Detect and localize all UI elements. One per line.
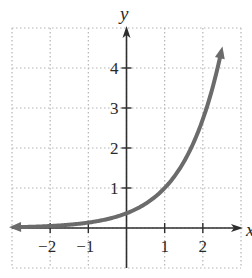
x-tick-label: −1 — [76, 237, 94, 256]
y-axis-label: y — [118, 3, 129, 24]
y-tick-label: 4 — [110, 59, 119, 78]
x-tick-label: 1 — [160, 237, 169, 256]
x-tick-label: −2 — [38, 237, 56, 256]
axes — [12, 26, 243, 268]
y-tick-label: 2 — [110, 139, 119, 158]
y-tick-label: 3 — [110, 99, 119, 118]
y-tick-label: 1 — [110, 179, 119, 198]
x-axis-label: x — [245, 219, 252, 240]
curve-arrow-left-icon — [9, 222, 21, 232]
exponential-graph: −2−1121234 x y — [0, 0, 252, 278]
curve-arrow-up-icon — [215, 46, 225, 59]
x-tick-label: 2 — [199, 237, 208, 256]
